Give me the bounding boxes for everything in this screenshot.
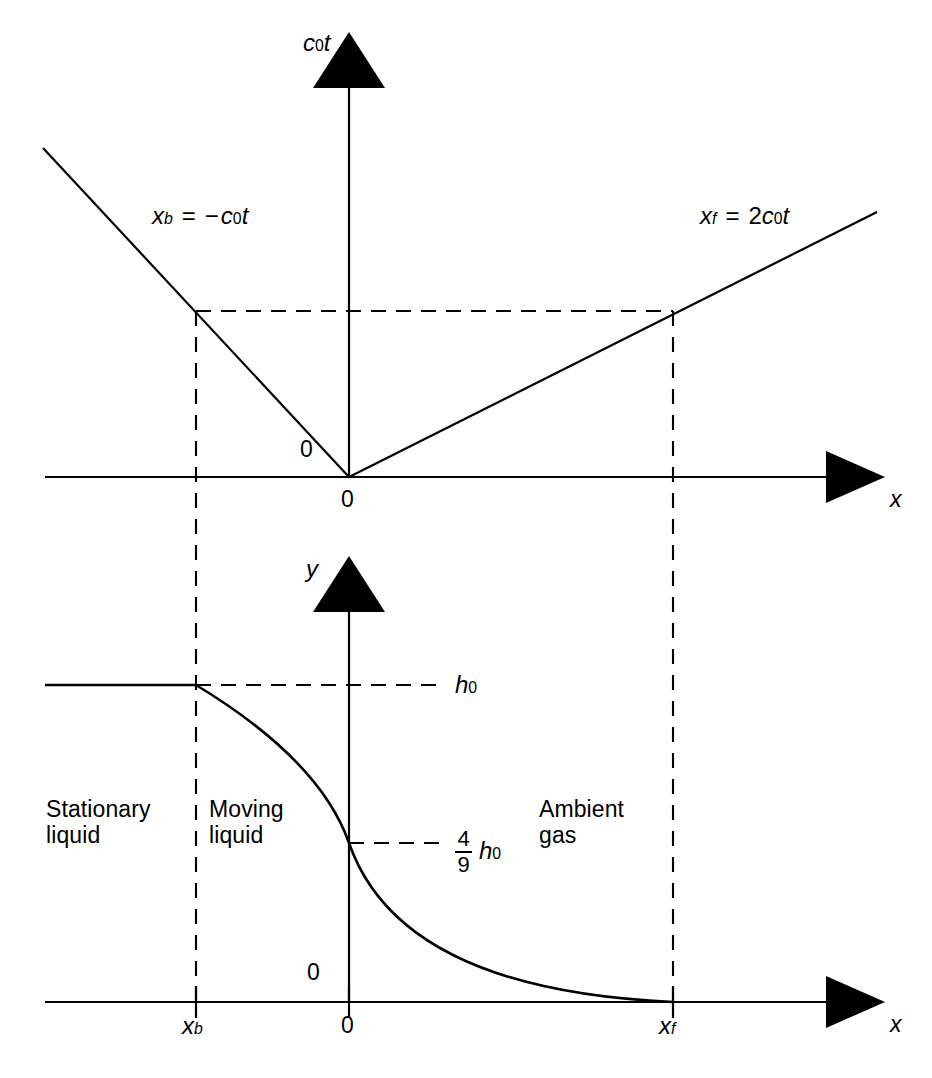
region-line-2: liquid bbox=[209, 823, 284, 849]
top-y-axis-label: c0t bbox=[303, 30, 330, 57]
h0-level-label: h0 bbox=[455, 672, 477, 699]
tick-label-xb: xb bbox=[182, 1013, 203, 1040]
four-ninths-h0-level-label: 4 9 h0 bbox=[455, 824, 501, 875]
bottom-x-axis-label: x bbox=[890, 1012, 902, 1038]
region-label-ambient-gas: Ambient gas bbox=[539, 797, 624, 849]
bottom-y-axis-label: y bbox=[306, 556, 318, 583]
region-line-1: Ambient bbox=[539, 797, 624, 823]
region-line-1: Moving bbox=[209, 797, 284, 823]
region-line-1: Stationary bbox=[46, 797, 151, 823]
bottom-y-origin-label: 0 bbox=[307, 960, 320, 986]
bottom-x-axis-arrowhead bbox=[826, 976, 885, 1028]
top-x-axis-arrowhead bbox=[826, 451, 885, 503]
front-characteristic-line bbox=[349, 212, 877, 477]
fraction-four-ninths: 4 9 bbox=[455, 828, 472, 876]
region-label-stationary-liquid: Stationary liquid bbox=[46, 797, 151, 849]
tick-label-xf: xf bbox=[659, 1013, 675, 1040]
region-line-2: gas bbox=[539, 823, 624, 849]
top-x-origin-label: 0 bbox=[341, 487, 354, 513]
top-x-axis-label: x bbox=[890, 487, 902, 513]
dam-break-figure: c0t x 0 0 xb=−c0t xf=2c0t y x 0 0 h0 bbox=[0, 0, 932, 1078]
back-characteristic-label: xb=−c0t bbox=[152, 203, 248, 230]
front-characteristic-label: xf=2c0t bbox=[700, 203, 789, 230]
top-y-origin-label: 0 bbox=[300, 437, 313, 463]
region-label-moving-liquid: Moving liquid bbox=[209, 797, 284, 849]
figure-vector-canvas bbox=[0, 0, 932, 1078]
bottom-y-axis-arrowhead bbox=[313, 556, 385, 612]
region-line-2: liquid bbox=[46, 823, 151, 849]
bottom-x-origin-label: 0 bbox=[341, 1013, 354, 1039]
